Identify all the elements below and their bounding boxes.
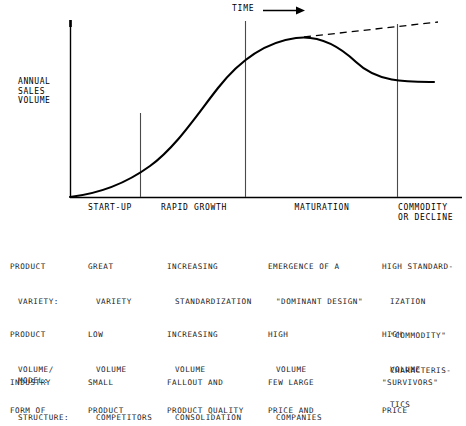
cell-line1: PRODUCT xyxy=(88,405,166,417)
cell-form-of-competition-maturation: PRICE AND DEPENDABILITY xyxy=(268,382,382,426)
sales-volume-curve xyxy=(70,37,434,197)
row-label-line1: PRODUCT xyxy=(10,261,86,273)
y-axis-label: ANNUAL SALES VOLUME xyxy=(18,77,51,106)
stage-label-rapid-growth: RAPID GROWTH xyxy=(146,203,242,213)
stage-label-commodity-or-decline: COMMODITY OR DECLINE xyxy=(398,203,466,223)
cell-line1: PRODUCT QUALITY xyxy=(167,405,267,417)
stage-label-maturation: MATURATION xyxy=(250,203,394,213)
cell-form-of-competition-start-up: PRODUCT CHARACTER- ISTICS xyxy=(88,382,166,426)
cell-line1: LOW xyxy=(88,329,166,341)
time-arrow-head xyxy=(296,7,305,15)
cell-line1: INCREASING xyxy=(167,261,267,273)
lifecycle-chart: ANNUAL SALES VOLUME TIME START-UP RAPID … xyxy=(0,0,466,220)
cell-line1: HIGH xyxy=(268,329,382,341)
row-label-form-of-competition: FORM OF COMPETITION: xyxy=(10,382,90,426)
product-lifecycle-diagram: ANNUAL SALES VOLUME TIME START-UP RAPID … xyxy=(0,0,466,426)
cell-line1: GREAT xyxy=(88,261,166,273)
chart-svg xyxy=(0,0,466,220)
row-label-line1: PRODUCT xyxy=(10,329,86,341)
cell-form-of-competition-commodity: PRICE xyxy=(382,382,466,426)
row-label-line1: FORM OF xyxy=(10,405,90,417)
cell-line1: PRICE xyxy=(382,405,466,417)
cell-form-of-competition-rapid-growth: PRODUCT QUALITY AND AVAILABILITY xyxy=(167,382,267,426)
cell-line1: HIGH xyxy=(382,329,466,341)
time-axis-label: TIME xyxy=(232,4,254,14)
cell-line1: PRICE AND xyxy=(268,405,382,417)
stage-label-start-up: START-UP xyxy=(79,203,141,213)
cell-line1: HIGH STANDARD- xyxy=(382,261,466,273)
projection-dashed-line xyxy=(304,22,438,37)
cell-line1: EMERGENCE OF A xyxy=(268,261,382,273)
cell-line1: INCREASING xyxy=(167,329,267,341)
